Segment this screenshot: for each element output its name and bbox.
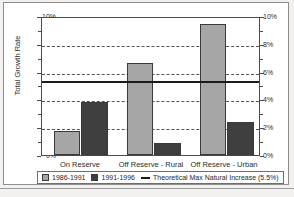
y-axis-tick-label-right-8: 8% xyxy=(263,41,293,49)
legend-item-1986-1991[interactable]: 1986-1991 xyxy=(42,174,85,182)
bar-on-reserve-1991-1996[interactable] xyxy=(81,102,108,155)
y-axis-tick-label-right-6: 6% xyxy=(263,69,293,77)
y-axis-tickmark-right-minor xyxy=(260,86,263,87)
legend-line-marker-icon xyxy=(141,177,150,179)
bar-off-reserve-rural-1991-1996[interactable] xyxy=(154,143,181,155)
y-axis-tickmark-right xyxy=(260,156,264,157)
y-axis-tick-label-right-10: 10% xyxy=(263,13,293,21)
bar-off-reserve-urban-1986-1991[interactable] xyxy=(200,24,226,155)
legend-label-1986-1991: 1986-1991 xyxy=(52,174,85,182)
y-axis-tickmark-right xyxy=(260,73,264,74)
x-axis-label-off-reserve-rural: Off Reserve - Rural xyxy=(116,160,186,169)
y-axis-tick-label-right-4: 4% xyxy=(263,96,293,104)
y-axis-tick-label-right-0: 0% xyxy=(263,152,293,160)
y-axis-tickmark-right xyxy=(260,45,264,46)
page-bottom-rule xyxy=(0,188,294,189)
legend-swatch-dark-icon xyxy=(91,174,98,181)
growth-rate-bar-chart: Total Growth Rate 10% 8% 6% 4% 2% 0% 10%… xyxy=(4,3,290,186)
legend-item-theoretical-max[interactable]: Theoretical Max Natural Increase (5.5%) xyxy=(141,174,279,182)
y-axis-tickmark-right xyxy=(260,17,264,18)
theoretical-max-reference-line xyxy=(42,81,259,83)
y-axis-tickmark-right-minor xyxy=(260,59,263,60)
legend-swatch-light-icon xyxy=(42,174,49,181)
chart-legend: 1986-1991 1991-1996 Theoretical Max Natu… xyxy=(37,171,284,184)
legend-label-1991-1996: 1991-1996 xyxy=(101,174,134,182)
figure-frame: Total Growth Rate 10% 8% 6% 4% 2% 0% 10%… xyxy=(3,2,289,185)
bar-off-reserve-rural-1986-1991[interactable] xyxy=(127,63,153,155)
bar-off-reserve-urban-1991-1996[interactable] xyxy=(227,122,254,155)
y-axis-tickmark-right-minor xyxy=(260,142,263,143)
plot-area xyxy=(41,17,260,156)
bar-group-off-reserve-rural xyxy=(123,18,185,155)
y-axis-tickmark-left xyxy=(37,156,41,157)
bar-on-reserve-1986-1991[interactable] xyxy=(54,131,80,155)
legend-item-1991-1996[interactable]: 1991-1996 xyxy=(91,174,134,182)
bar-group-off-reserve-urban xyxy=(196,18,258,155)
scanned-page: Total Growth Rate 10% 8% 6% 4% 2% 0% 10%… xyxy=(0,0,294,197)
y-axis-tickmark-right-minor xyxy=(260,114,263,115)
x-axis-label-on-reserve: On Reserve xyxy=(49,160,111,169)
y-axis-tickmark-right xyxy=(260,100,264,101)
y-axis-title: Total Growth Rate xyxy=(13,16,22,116)
y-axis-tick-label-right-2: 2% xyxy=(263,124,293,132)
bar-group-on-reserve xyxy=(50,18,112,155)
legend-label-theoretical-max: Theoretical Max Natural Increase (5.5%) xyxy=(153,174,279,182)
y-axis-tickmark-right xyxy=(260,128,264,129)
x-axis-label-off-reserve-urban: Off Reserve - Urban xyxy=(189,160,259,169)
y-axis-tickmark-right-minor xyxy=(260,31,263,32)
